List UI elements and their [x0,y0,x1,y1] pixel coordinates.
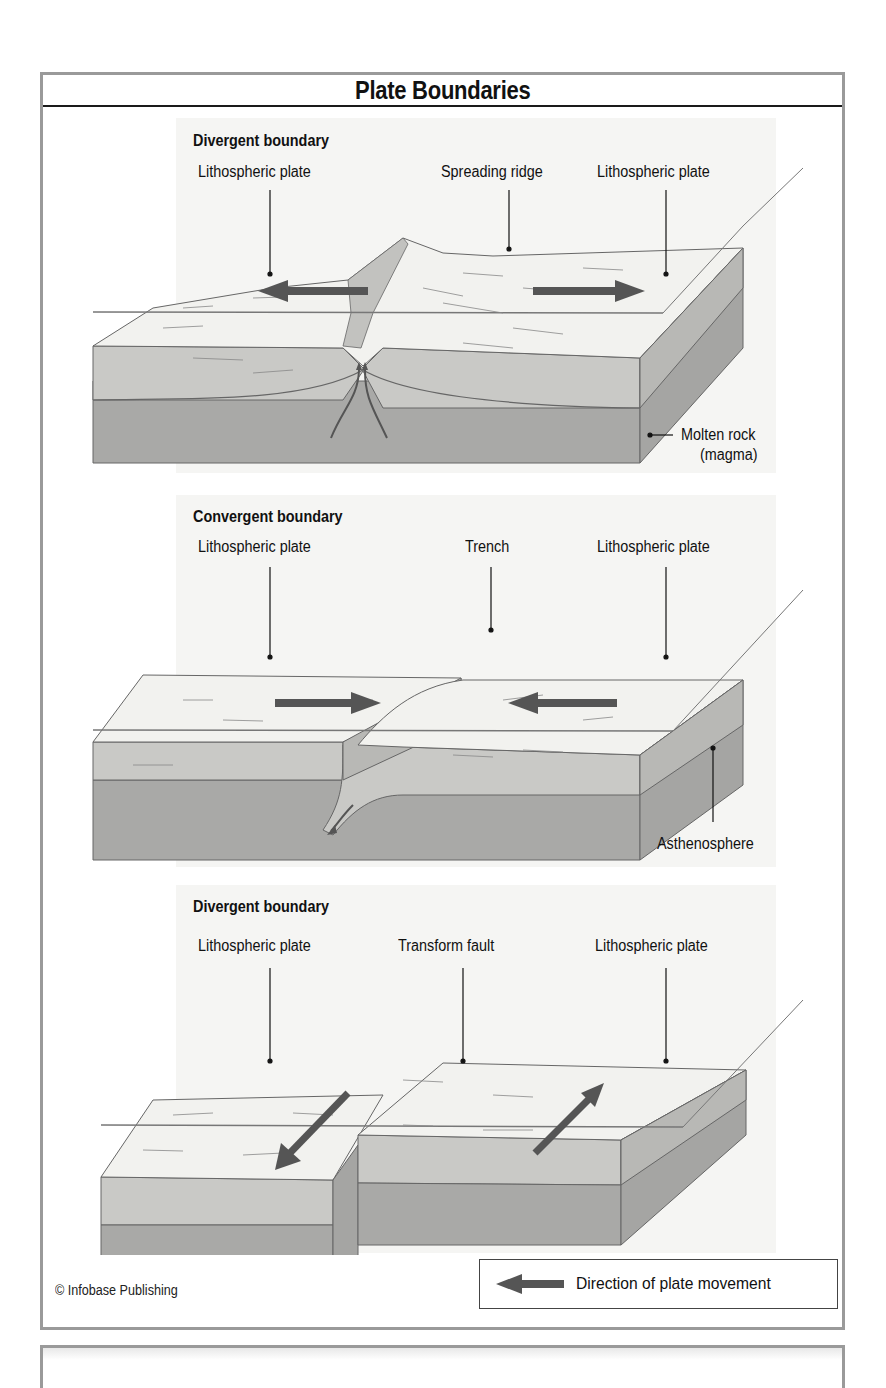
label-left-plate: Lithospheric plate [198,538,311,556]
label-asthenosphere: Asthenosphere [657,835,754,853]
figure-frame: Plate Boundaries [40,72,845,1330]
copyright-credit: © Infobase Publishing [55,1282,178,1298]
panel-heading: Divergent boundary [193,898,329,916]
title-bar: Plate Boundaries [43,75,842,107]
label-left-plate: Lithospheric plate [198,163,311,181]
panel-heading: Convergent boundary [193,508,343,526]
label-spreading-ridge: Spreading ridge [441,163,543,181]
label-right-plate: Lithospheric plate [595,937,708,955]
legend: Direction of plate movement [479,1259,838,1309]
left-arrow-icon [496,1274,566,1294]
label-left-plate: Lithospheric plate [198,937,311,955]
label-trench: Trench [465,538,509,556]
panel-divergent-ridge: Divergent boundary Lithospheric plate Sp… [43,108,842,478]
panel-transform: Divergent boundary Lithospheric plate Tr… [43,885,842,1255]
legend-label: Direction of plate movement [576,1274,771,1294]
panel-heading: Divergent boundary [193,132,329,150]
label-right-plate: Lithospheric plate [597,538,710,556]
label-transform-fault: Transform fault [398,937,494,955]
convergent-diagram [43,495,842,870]
next-figure-frame [40,1345,845,1388]
panel-convergent: Convergent boundary Lithospheric plate T… [43,495,842,870]
label-molten-rock: Molten rock [681,426,755,444]
figure-title: Plate Boundaries [355,76,531,105]
label-magma: (magma) [700,446,758,464]
label-right-plate: Lithospheric plate [597,163,710,181]
